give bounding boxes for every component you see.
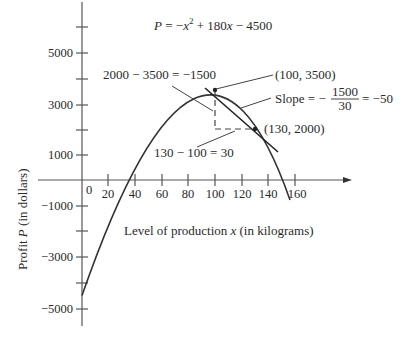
svg-text:30: 30 xyxy=(339,98,352,113)
x-tick-label: 80 xyxy=(182,187,195,201)
rise-annotation: 2000 − 3500 = −1500 xyxy=(103,67,216,82)
leader-line-point1 xyxy=(216,75,273,89)
y-tick-label: −1000 xyxy=(41,199,73,213)
svg-text:Slope = −: Slope = − xyxy=(275,91,326,106)
x-tick-label: 20 xyxy=(102,187,115,201)
secant-line xyxy=(205,88,278,152)
x-tick-label: 0 xyxy=(86,183,92,197)
y-axis-label: Profit P (in dollars) xyxy=(15,169,30,270)
equation-title: P = −x2 + 180x − 4500 xyxy=(153,16,272,33)
x-tick-label: 100 xyxy=(206,187,225,201)
y-tick-label: 3000 xyxy=(48,98,73,112)
svg-text:1500: 1500 xyxy=(332,84,358,99)
x-axis-arrow-icon xyxy=(343,177,352,183)
x-tick-label: 140 xyxy=(259,187,278,201)
y-tick-label: 1000 xyxy=(48,148,73,162)
slope-annotation: Slope = − 1500 30 = −50 xyxy=(275,84,393,113)
y-tick-label: 5000 xyxy=(48,46,73,60)
point-130-2000 xyxy=(253,127,257,131)
svg-text:= −50: = −50 xyxy=(362,91,393,106)
x-tick-label: 60 xyxy=(156,187,169,201)
point-label-100-3500: (100, 3500) xyxy=(275,67,336,82)
x-tick-label: 120 xyxy=(233,187,252,201)
y-tick-label: −5000 xyxy=(41,302,73,316)
point-label-130-2000: (130, 2000) xyxy=(264,121,325,136)
x-axis-label: Level of production x (in kilograms) xyxy=(124,223,314,238)
y-tick-label: −3000 xyxy=(41,250,73,264)
run-annotation: 130 − 100 = 30 xyxy=(154,145,234,160)
leader-line-slope xyxy=(241,98,271,108)
x-tick-label: 40 xyxy=(129,187,142,201)
profit-chart: 5000 3000 1000 −1000 −3000 −5000 0 20 40… xyxy=(0,0,406,342)
